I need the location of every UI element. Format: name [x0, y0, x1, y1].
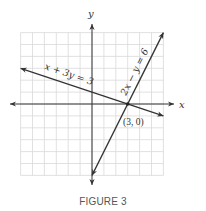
- figure-caption: FIGURE 3: [0, 196, 206, 207]
- axes: [10, 24, 174, 185]
- y-axis-label: y: [87, 8, 94, 19]
- intersection-point: [126, 102, 130, 106]
- x-axis-label: x: [179, 99, 185, 110]
- line-label-x-plus-3y-eq-3: x + 3y = 3: [43, 60, 95, 87]
- intersection-label: (3, 0): [123, 117, 144, 128]
- figure-3-graph: x y x + 3y = 3 2x − y = 6 (3, 0): [0, 0, 206, 211]
